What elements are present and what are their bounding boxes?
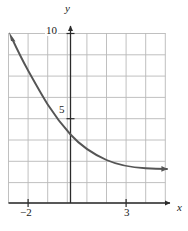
y-axis-label: y <box>65 3 70 14</box>
x-tick-label-3: 3 <box>124 207 130 218</box>
x-tick-label-negative-2: −2 <box>20 207 32 218</box>
x-axis-label: x <box>177 202 182 213</box>
grid-vertical-lines <box>9 33 166 203</box>
exponential-decay-figure: y x 10 5 −2 3 <box>0 0 188 231</box>
graph-canvas <box>0 0 188 231</box>
exponential-curve <box>12 39 167 170</box>
y-tick-label-10: 10 <box>45 25 58 36</box>
y-tick-label-5: 5 <box>58 104 66 115</box>
